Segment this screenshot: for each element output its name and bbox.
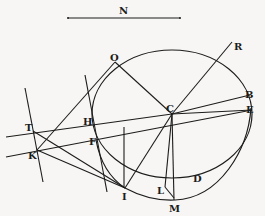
label-B: B <box>245 89 253 100</box>
point-labels: O R B E C H T F K I L D M <box>25 41 254 214</box>
label-H: H <box>83 116 92 127</box>
construction-lines <box>6 42 252 200</box>
geometry-diagram: N <box>0 0 265 216</box>
label-M: M <box>169 203 180 214</box>
label-L: L <box>157 185 164 196</box>
label-T: T <box>25 122 33 133</box>
label-F: F <box>89 136 96 147</box>
label-K: K <box>28 150 37 161</box>
label-O: O <box>110 52 119 63</box>
label-R: R <box>234 41 243 52</box>
label-I: I <box>122 191 127 202</box>
label-E: E <box>246 104 254 115</box>
label-D: D <box>193 173 202 184</box>
label-N: N <box>119 5 128 16</box>
scale-bar: N <box>67 5 181 19</box>
label-C: C <box>166 103 174 114</box>
